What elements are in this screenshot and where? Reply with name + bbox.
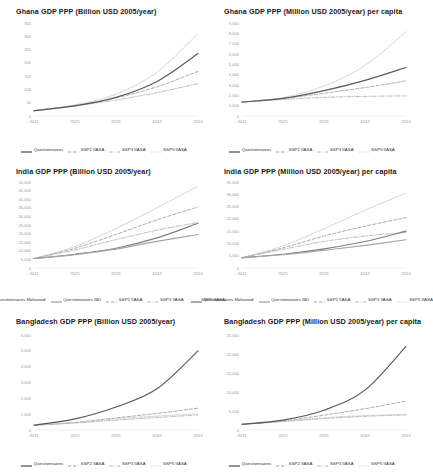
svg-text:0: 0 <box>29 114 32 119</box>
legend-item: SSP3 IIASA <box>317 462 353 466</box>
legend-label: SSP2 IIASA <box>81 462 105 466</box>
svg-text:100: 100 <box>24 87 32 92</box>
legend-label: SSP2 IIASA <box>289 148 313 152</box>
svg-text:2,000: 2,000 <box>21 396 32 401</box>
svg-text:6,000: 6,000 <box>21 333 32 338</box>
legend-label: SSP2 IIASA <box>119 298 143 302</box>
legend-item: SSP2 IIASA <box>68 462 104 466</box>
svg-text:10,000: 10,000 <box>226 241 239 246</box>
legend-label: SSP5 IIASA <box>371 148 395 152</box>
legend-item: SSP3 IIASA <box>109 462 145 466</box>
svg-text:5,000: 5,000 <box>229 253 240 258</box>
svg-text:20,000: 20,000 <box>18 231 31 236</box>
svg-text:15,000: 15,000 <box>226 371 239 376</box>
legend-label: SSP2 IIASA <box>327 298 351 302</box>
svg-text:10,000: 10,000 <box>18 248 31 253</box>
chart-panel-bangladesh-billion: Bangladesh GDP PPP (Billion USD 2005/yea… <box>0 310 208 476</box>
legend-item: SSP3 IIASA <box>317 148 353 152</box>
svg-text:2051: 2051 <box>401 433 411 438</box>
legend-item: Questionnaires <box>21 462 63 466</box>
legend-label: Questionnaires Mahanadi <box>0 298 46 302</box>
svg-text:4,000: 4,000 <box>21 364 32 369</box>
legend-item: SSP2 IIASA <box>106 298 142 302</box>
svg-text:5,000: 5,000 <box>229 409 240 414</box>
chart-title: India GDP PPP (Billion USD 2005/year) <box>0 160 208 176</box>
chart-panel-ghana-percapita: Ghana GDP PPP (Million USD 2005/year) pe… <box>208 0 416 160</box>
legend-label: Questionnaires <box>242 462 272 466</box>
legend-item: Questionnaires <box>229 462 271 466</box>
svg-text:1,000: 1,000 <box>229 103 240 108</box>
svg-text:45,000: 45,000 <box>18 188 31 193</box>
legend-item: Questionnaires <box>229 148 271 152</box>
svg-text:200: 200 <box>24 60 32 65</box>
svg-text:2041: 2041 <box>360 433 370 438</box>
svg-text:2031: 2031 <box>111 271 121 276</box>
legend-label: SSP3 IIASA <box>160 298 184 302</box>
svg-text:50,000: 50,000 <box>18 180 31 185</box>
svg-text:2011: 2011 <box>29 119 39 124</box>
svg-text:0: 0 <box>29 428 32 433</box>
legend-item: SSP2 IIASA <box>314 298 350 302</box>
svg-text:0: 0 <box>237 114 240 119</box>
svg-text:30,000: 30,000 <box>226 192 239 197</box>
svg-text:5,000: 5,000 <box>229 62 240 67</box>
svg-text:2021: 2021 <box>70 433 80 438</box>
chart-legend: QuestionnairesSSP2 IIASASSP3 IIASASSP5 I… <box>0 462 208 466</box>
legend-label: SSP3 IIASA <box>122 462 146 466</box>
svg-text:2051: 2051 <box>193 271 203 276</box>
chart-row-bangladesh: Bangladesh GDP PPP (Billion USD 2005/yea… <box>0 310 416 476</box>
svg-text:25,000: 25,000 <box>18 223 31 228</box>
svg-text:250: 250 <box>24 47 32 52</box>
svg-text:2021: 2021 <box>278 271 288 276</box>
chart-legend: Questionnaires MahanadiQuestionnaires IB… <box>0 298 208 302</box>
chart-legend: QuestionnairesSSP2 IIASASSP3 IIASASSP5 I… <box>0 148 208 152</box>
svg-text:5,000: 5,000 <box>21 257 32 262</box>
legend-label: SSP2 IIASA <box>81 148 105 152</box>
svg-text:50: 50 <box>26 100 31 105</box>
legend-item: SSP5 IIASA <box>151 148 187 152</box>
chart-title: Ghana GDP PPP (Million USD 2005/year) pe… <box>208 0 416 16</box>
legend-item: SSP2 IIASA <box>276 462 312 466</box>
chart-panel-bangladesh-percapita: Bangladesh GDP PPP (Million USD 2005/yea… <box>208 310 416 476</box>
svg-text:2031: 2031 <box>111 119 121 124</box>
svg-text:5,000: 5,000 <box>21 348 32 353</box>
svg-text:30,000: 30,000 <box>18 214 31 219</box>
svg-text:25,000: 25,000 <box>226 204 239 209</box>
svg-text:35,000: 35,000 <box>18 205 31 210</box>
legend-item: Questionnaires Mahanadi <box>191 298 254 302</box>
svg-text:2021: 2021 <box>70 119 80 124</box>
svg-text:35,000: 35,000 <box>226 180 239 185</box>
svg-text:10,000: 10,000 <box>226 390 239 395</box>
plot-area: 05,00010,00015,00020,00025,00030,00035,0… <box>0 178 208 292</box>
chart-legend: QuestionnairesSSP2 IIASASSP3 IIASASSP5 I… <box>208 148 416 152</box>
chart-legend: Questionnaires MahanadiQuestionnaires IB… <box>208 298 416 302</box>
chart-title: Bangladesh GDP PPP (Billion USD 2005/yea… <box>0 310 208 326</box>
svg-text:2031: 2031 <box>319 433 329 438</box>
legend-item: SSP5 IIASA <box>151 462 187 466</box>
chart-row-ghana: Ghana GDP PPP (Billion USD 2005/year) 05… <box>0 0 416 160</box>
chart-title: Bangladesh GDP PPP (Million USD 2005/yea… <box>208 310 416 326</box>
plot-area: 01,0002,0003,0004,0005,0006,000201120212… <box>0 330 208 456</box>
plot-area: 05,00010,00015,00020,00025,0002011202120… <box>208 330 416 456</box>
svg-text:2011: 2011 <box>29 433 39 438</box>
chart-panel-ghana-billion: Ghana GDP PPP (Billion USD 2005/year) 05… <box>0 0 208 160</box>
svg-text:2021: 2021 <box>70 271 80 276</box>
legend-label: SSP3 IIASA <box>368 298 392 302</box>
legend-label: SSP3 IIASA <box>330 462 354 466</box>
svg-text:4,000: 4,000 <box>229 72 240 77</box>
svg-text:150: 150 <box>24 74 32 79</box>
svg-text:20,000: 20,000 <box>226 352 239 357</box>
svg-text:350: 350 <box>24 21 32 26</box>
legend-item: Questionnaires <box>21 148 63 152</box>
svg-text:8,000: 8,000 <box>229 31 240 36</box>
svg-text:0: 0 <box>237 266 240 271</box>
chart-legend: QuestionnairesSSP2 IIASASSP3 IIASASSP5 I… <box>208 462 416 466</box>
chart-row-india: India GDP PPP (Billion USD 2005/year) 05… <box>0 160 416 310</box>
legend-item: SSP3 IIASA <box>109 148 145 152</box>
legend-label: SSP3 IIASA <box>330 148 354 152</box>
svg-text:2011: 2011 <box>237 119 247 124</box>
chart-panel-india-percapita: India GDP PPP (Million USD 2005/year) pe… <box>208 160 416 310</box>
legend-label: SSP5 IIASA <box>163 462 187 466</box>
svg-text:2051: 2051 <box>401 271 411 276</box>
